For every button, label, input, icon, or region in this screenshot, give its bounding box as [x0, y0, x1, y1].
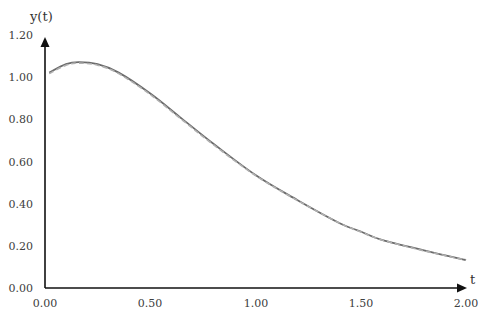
series-line-dashed — [49, 63, 466, 260]
x-tick-label: 0.00 — [33, 297, 58, 310]
x-tick-label: 0.50 — [138, 297, 163, 310]
axes — [41, 37, 468, 293]
y-tick-labels: 0.00 0.20 0.40 0.60 0.80 1.00 1.20 — [9, 29, 34, 295]
x-axis-title: t — [470, 272, 476, 287]
y-tick-label: 0.40 — [9, 198, 34, 211]
y-tick-label: 0.20 — [9, 240, 34, 253]
y-tick-label: 1.00 — [9, 71, 34, 84]
y-tick-label: 1.20 — [9, 29, 34, 42]
y-tick-label: 0.60 — [9, 156, 34, 169]
y-tick-label: 0.80 — [9, 113, 34, 126]
x-axis-arrow-icon — [457, 284, 467, 293]
y-axis-title: y(t) — [29, 9, 53, 24]
x-tick-label: 2.00 — [454, 297, 479, 310]
series-line-solid — [49, 62, 466, 260]
y-axis-arrow-icon — [41, 37, 50, 47]
x-tick-labels: 0.00 0.50 1.00 1.50 2.00 — [33, 297, 479, 310]
x-tick-label: 1.00 — [244, 297, 269, 310]
line-chart: y(t) t 0.00 0.20 0.40 0.60 0.80 1.00 1.2… — [0, 0, 489, 317]
y-tick-label: 0.00 — [9, 282, 34, 295]
plot-lines — [49, 62, 466, 260]
x-tick-label: 1.50 — [349, 297, 374, 310]
